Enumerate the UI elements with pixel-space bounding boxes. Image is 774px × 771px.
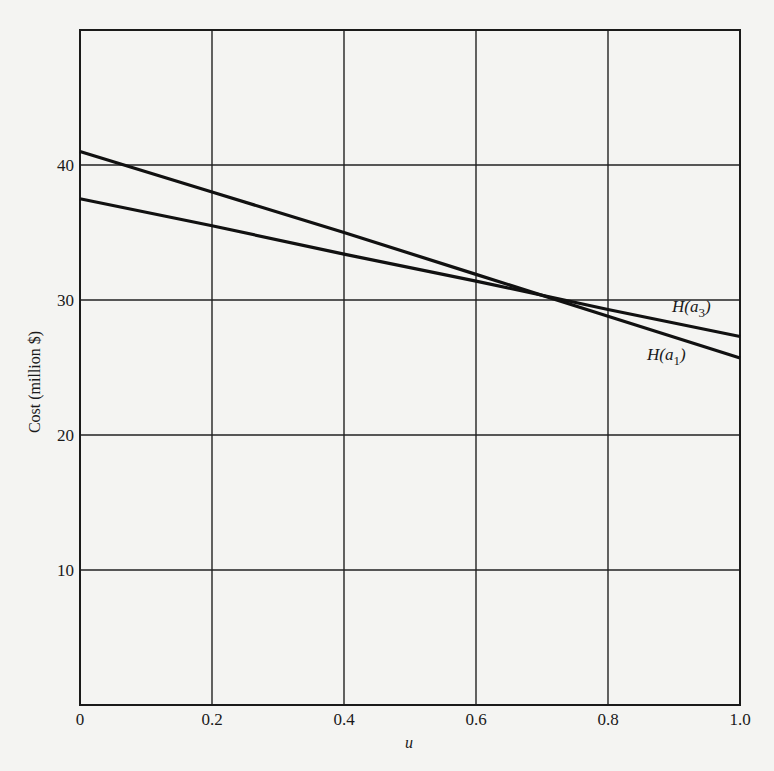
series-label-ha1: H(a1) [646,345,686,368]
x-tick-label: 0 [76,710,85,729]
grid-lines [80,30,740,705]
plot-border [80,30,740,705]
x-tick-label: 0.8 [597,710,618,729]
x-tick-label: 0.6 [465,710,486,729]
y-tick-label: 40 [57,156,74,175]
tick-labels: 00.20.40.60.81.010203040 [57,156,751,729]
series-line-ha1 [80,152,740,359]
x-tick-label: 1.0 [729,710,750,729]
chart: 00.20.40.60.81.010203040 H(a1)H(a3) u Co… [0,0,774,771]
y-tick-label: 10 [57,561,74,580]
y-tick-label: 30 [57,291,74,310]
y-tick-label: 20 [57,426,74,445]
plot-frame [80,30,740,705]
series-label-ha3: H(a3) [671,297,711,320]
x-axis-title: u [405,734,413,751]
y-axis-title: Cost (million $) [26,331,44,433]
x-tick-label: 0.4 [333,710,355,729]
x-tick-label: 0.2 [201,710,222,729]
series-lines [80,152,740,359]
series-line-ha3 [80,199,740,337]
